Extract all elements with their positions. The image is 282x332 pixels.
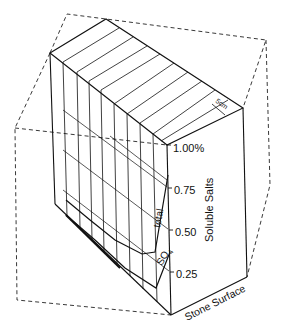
surface-label: Stone Surface: [182, 282, 247, 323]
axis-title: Soluble Salts: [203, 177, 215, 242]
tick-label-025: 0.25: [176, 268, 197, 280]
stone-block-diagram: 1.00% 0.75 0.50 0.25 Soluble Salts 5cm S…: [0, 0, 282, 332]
tick-label-100: 1.00%: [173, 142, 204, 154]
block-edges: [50, 19, 247, 315]
so4-label: SO4: [154, 246, 174, 268]
tick-label-075: 0.75: [174, 184, 195, 196]
tick-label-050: 0.50: [175, 226, 196, 238]
front-slice-lines: [63, 62, 157, 302]
scale-label: 5cm: [214, 97, 229, 110]
